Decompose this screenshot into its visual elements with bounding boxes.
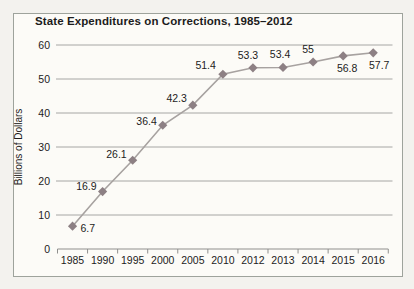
data-point-label: 51.4 [195,59,216,71]
x-axis-label: 2015 [331,254,355,266]
data-point-label: 56.8 [337,62,358,74]
y-axis-tick-label: 60 [38,39,50,51]
y-axis-tick-label: 0 [44,243,50,255]
data-point-marker [248,63,257,72]
data-point-label: 53.3 [238,49,259,61]
y-axis-title: Billions of Dollars [13,109,24,186]
data-point-label: 42.3 [166,92,187,104]
data-point-label: 57.7 [369,59,390,71]
y-axis-tick-label: 30 [38,141,50,153]
y-axis-tick-label: 50 [38,73,50,85]
data-point-label: 26.1 [106,148,127,160]
y-axis-tick-label: 10 [38,209,50,221]
data-point-label: 6.7 [81,222,96,234]
x-axis-label: 2013 [271,254,295,266]
data-point-marker [278,63,287,72]
x-axis-label: 2016 [362,254,386,266]
figure: State Expenditures on Corrections, 1985–… [0,0,414,289]
y-axis-tick-label: 20 [38,175,50,187]
x-axis-label: 2005 [181,254,205,266]
x-axis-label: 1990 [91,254,115,266]
data-point-marker [308,57,317,66]
x-axis-label: 1985 [61,254,85,266]
x-axis-label: 1995 [121,254,145,266]
corrections-line-chart: 0102030405060198519901995200020052010201… [0,0,414,289]
x-axis-label: 2012 [241,254,265,266]
data-point-marker [339,51,348,60]
x-axis-label: 2000 [151,254,175,266]
data-point-label: 53.4 [270,48,291,60]
y-axis-tick-label: 40 [38,107,50,119]
data-point-label: 16.9 [76,180,97,192]
data-point-label: 36.4 [136,115,157,127]
x-axis-label: 2014 [301,254,325,266]
data-point-label: 55 [302,43,314,55]
data-point-marker [369,48,378,57]
x-axis-label: 2010 [211,254,235,266]
